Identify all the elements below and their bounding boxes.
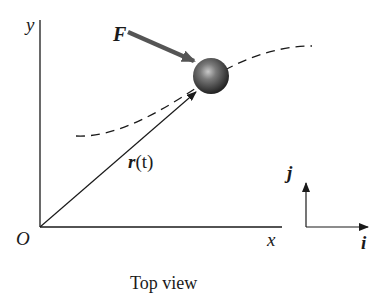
diagram-canvas: y O x F r(t) j i Top view (0, 0, 389, 297)
unit-vector-i-label: i (361, 233, 366, 252)
unit-vector-j-label: j (287, 163, 292, 182)
origin-label: O (16, 229, 30, 248)
diagram-figure (0, 0, 389, 297)
y-axis-label: y (26, 15, 34, 34)
figure-caption: Top view (130, 274, 197, 292)
particle-sphere (193, 58, 229, 94)
force-arrow (128, 32, 194, 61)
position-vector-argument: (t) (135, 151, 153, 172)
force-label: F (113, 24, 126, 44)
x-axis-label: x (267, 230, 275, 249)
position-vector-arrow (40, 92, 196, 227)
position-vector-label: r(t) (128, 152, 153, 171)
